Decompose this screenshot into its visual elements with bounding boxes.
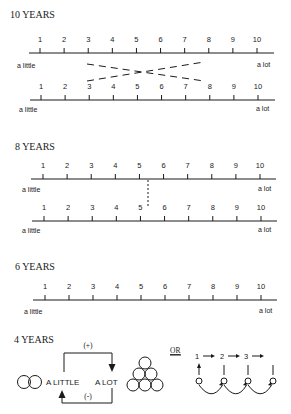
count-arc <box>248 385 271 394</box>
label-a-little: A LITTLE <box>46 378 79 387</box>
scale-tick-label: 10 <box>257 282 265 291</box>
scale-tick-label: 7 <box>186 161 190 170</box>
circle <box>127 379 139 391</box>
scale-tick-label: 4 <box>110 35 114 44</box>
circle-pyramid <box>127 357 163 391</box>
count-arc <box>224 385 246 394</box>
scale-tick-label: 3 <box>90 203 94 212</box>
scale-tick-label: 6 <box>162 203 166 212</box>
heading-4-years: 4 YEARS <box>14 334 54 345</box>
scale-high-label: a lot <box>259 307 272 314</box>
scale-tick-label: 2 <box>67 282 71 291</box>
plus-arrow-path <box>64 353 112 372</box>
scale-tick-label: 9 <box>231 35 235 44</box>
scale-tick-label: 5 <box>139 282 143 291</box>
count-circle <box>196 378 202 384</box>
scale-8-years-bottom: 12345678910a littlea lot <box>22 203 277 234</box>
scale-tick-label: 4 <box>113 161 117 170</box>
scale-tick-label: 7 <box>187 282 191 291</box>
scale-tick-label: 8 <box>208 82 212 91</box>
scale-tick-label: 3 <box>86 35 90 44</box>
scale-tick-label: 2 <box>62 35 66 44</box>
circle <box>151 379 163 391</box>
arrowhead <box>211 354 215 358</box>
scale-tick-label: 9 <box>234 161 238 170</box>
label-a-lot: A LOT <box>95 378 118 387</box>
scale-tick-label: 5 <box>134 35 138 44</box>
scale-tick-label: 10 <box>256 161 264 170</box>
scale-10-years-bottom: 12345678910a littlea lot <box>19 82 275 113</box>
scale-tick-label: 9 <box>235 203 239 212</box>
or-label: OR <box>170 346 180 355</box>
scale-low-label: a little <box>19 106 37 113</box>
scale-tick-label: 7 <box>187 203 191 212</box>
scale-tick-label: 7 <box>184 82 188 91</box>
diagram-canvas: 10 YEARS 12345678910a littlea lot 123456… <box>0 0 291 414</box>
scale-8-years-top: 12345678910a littlea lot <box>22 161 276 193</box>
scale-tick-label: 3 <box>89 161 93 170</box>
scale-tick-label: 6 <box>163 282 167 291</box>
scale-tick-label: 1 <box>38 35 42 44</box>
scale-high-label: a lot <box>258 226 271 233</box>
scale-tick-label: 1 <box>42 203 46 212</box>
arrowhead <box>260 354 264 358</box>
count-arc <box>199 385 222 394</box>
scale-low-label: a little <box>22 186 40 193</box>
scale-high-label: a lot <box>256 105 269 112</box>
scale-tick-label: 6 <box>161 161 165 170</box>
arrow-up-icon <box>59 390 66 398</box>
heading-8-years: 8 YEARS <box>15 141 55 152</box>
scale-tick-label: 8 <box>211 282 215 291</box>
scale-10-years-top: 12345678910a littlea lot <box>17 35 274 69</box>
scale-tick-label: 3 <box>91 282 95 291</box>
scale-tick-label: 7 <box>183 35 187 44</box>
scale-tick-label: 5 <box>137 161 141 170</box>
plus-label: (+) <box>83 341 93 350</box>
scale-high-label: a lot <box>257 61 270 68</box>
scale-low-label: a little <box>22 227 40 234</box>
circle <box>133 368 145 380</box>
scale-tick-label: 2 <box>63 82 67 91</box>
arrow-up-icon <box>197 363 201 368</box>
scale-tick-label: 6 <box>158 35 162 44</box>
scale-tick-label: 1 <box>43 282 47 291</box>
scale-tick-label: 9 <box>232 82 236 91</box>
scale-tick-label: 1 <box>41 161 45 170</box>
scale-tick-label: 5 <box>138 203 142 212</box>
heading-6-years: 6 YEARS <box>15 261 55 272</box>
two-circles <box>18 376 42 389</box>
scale-tick-label: 6 <box>159 82 163 91</box>
scale-tick-label: 8 <box>207 35 211 44</box>
circle <box>139 357 151 369</box>
circle <box>139 379 151 391</box>
arrow-down-icon <box>109 364 116 372</box>
scale-tick-label: 4 <box>115 282 119 291</box>
scale-6-years: 12345678910a littlea lot <box>24 282 277 315</box>
cycle-arrows: (+) (-) <box>59 341 116 403</box>
scale-low-label: a little <box>17 62 35 69</box>
crossed-dashes <box>87 62 204 81</box>
arrowhead <box>236 354 240 358</box>
scale-low-label: a little <box>24 308 42 315</box>
minus-label: (-) <box>84 392 92 401</box>
scale-tick-label: 2 <box>65 161 69 170</box>
scale-tick-label: 8 <box>210 161 214 170</box>
scale-high-label: a lot <box>258 185 271 192</box>
scale-tick-label: 3 <box>87 82 91 91</box>
heading-10-years: 10 YEARS <box>10 9 55 20</box>
count-label: 2 <box>220 352 224 361</box>
scale-tick-label: 4 <box>111 82 115 91</box>
scale-tick-label: 5 <box>135 82 139 91</box>
scale-tick-label: 10 <box>257 203 265 212</box>
scale-tick-label: 9 <box>235 282 239 291</box>
scale-tick-label: 8 <box>211 203 215 212</box>
scale-tick-label: 1 <box>39 82 43 91</box>
scale-tick-label: 10 <box>254 82 262 91</box>
circle <box>145 368 157 380</box>
counting-sequence: 123 <box>195 352 276 394</box>
scale-tick-label: 10 <box>253 35 261 44</box>
scale-tick-label: 4 <box>114 203 118 212</box>
count-label: 3 <box>244 352 248 361</box>
count-label: 1 <box>195 352 199 361</box>
scale-tick-label: 2 <box>66 203 70 212</box>
